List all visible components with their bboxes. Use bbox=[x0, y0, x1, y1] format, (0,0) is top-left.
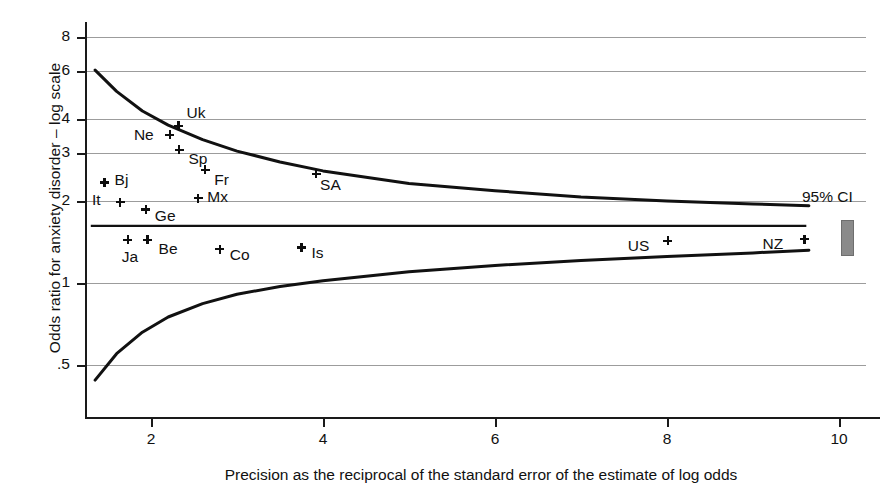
data-point-is bbox=[297, 243, 306, 252]
data-point-label-uk: Uk bbox=[187, 104, 206, 122]
lower-95ci-curve bbox=[95, 250, 809, 380]
data-point-label-fr: Fr bbox=[214, 171, 229, 189]
y-tick-label-4: 4 bbox=[30, 109, 70, 127]
data-point-co bbox=[215, 245, 224, 254]
y-tick-label-8: 8 bbox=[30, 27, 70, 45]
data-point-sp bbox=[175, 145, 184, 154]
x-tick-label-6: 6 bbox=[475, 430, 515, 448]
data-point-label-ge: Ge bbox=[155, 207, 176, 225]
x-tick-6 bbox=[495, 418, 497, 427]
data-point-label-it: It bbox=[92, 191, 101, 209]
y-tick-label-3: 3 bbox=[30, 143, 70, 161]
x-tick-label-4: 4 bbox=[303, 430, 343, 448]
x-tick-4 bbox=[323, 418, 325, 427]
data-point-label-nz: NZ bbox=[763, 235, 784, 253]
data-point-label-co: Co bbox=[230, 246, 250, 264]
data-point-label-bj: Bj bbox=[115, 171, 129, 189]
data-point-us bbox=[663, 236, 672, 245]
data-point-be bbox=[143, 235, 152, 244]
data-point-uk bbox=[174, 121, 183, 130]
y-tick-label-1: 1 bbox=[30, 273, 70, 291]
data-point-label-sa: SA bbox=[320, 176, 341, 194]
x-tick-2 bbox=[151, 418, 153, 427]
data-point-label-be: Be bbox=[159, 240, 178, 258]
data-point-ne bbox=[165, 130, 174, 139]
y-tick-label-6: 6 bbox=[30, 61, 70, 79]
data-point-ge bbox=[141, 205, 150, 214]
x-tick-label-8: 8 bbox=[647, 430, 687, 448]
x-tick-label-2: 2 bbox=[131, 430, 171, 448]
data-point-it bbox=[116, 198, 125, 207]
data-point-label-ja: Ja bbox=[122, 248, 138, 266]
ci-annotation-label: 95% CI bbox=[802, 188, 853, 206]
y-tick-label-.5: .5 bbox=[30, 355, 70, 373]
data-point-nz bbox=[800, 235, 809, 244]
data-point-ja bbox=[123, 235, 132, 244]
plot-area: .5123468 246810 UkNeSpFrSABjMxItGeJaBeCo… bbox=[0, 0, 884, 498]
x-tick-8 bbox=[667, 418, 669, 427]
y-tick-label-2: 2 bbox=[30, 191, 70, 209]
y-axis-line bbox=[85, 22, 87, 419]
x-tick-10 bbox=[839, 418, 841, 427]
data-point-fr bbox=[201, 165, 210, 174]
ci-legend-bar bbox=[841, 220, 854, 256]
x-tick-label-10: 10 bbox=[819, 430, 859, 448]
data-point-bj bbox=[100, 178, 109, 187]
data-point-label-is: Is bbox=[312, 244, 324, 262]
data-point-label-ne: Ne bbox=[134, 126, 154, 144]
funnel-plot-figure: Odds ratio for anxiety disorder – log sc… bbox=[0, 0, 884, 498]
data-point-label-us: US bbox=[628, 237, 650, 255]
data-point-mx bbox=[194, 194, 203, 203]
data-point-label-mx: Mx bbox=[207, 188, 228, 206]
x-axis-line bbox=[85, 417, 880, 419]
upper-95ci-curve bbox=[95, 70, 809, 206]
